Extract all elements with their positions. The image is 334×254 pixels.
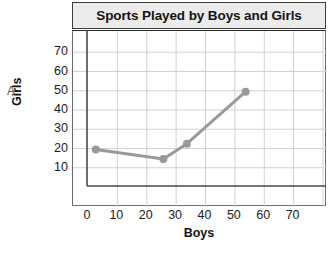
y-tick-50: 50 bbox=[46, 83, 68, 97]
x-axis-tick-labels: 010203040506070 bbox=[72, 208, 326, 226]
x-axis-title: Boys bbox=[72, 226, 326, 240]
y-tick-40: 40 bbox=[46, 102, 68, 116]
y-axis-tick-labels: 10203040506070 bbox=[42, 30, 68, 206]
chart-title: Sports Played by Boys and Girls bbox=[96, 8, 301, 23]
y-tick-60: 60 bbox=[46, 64, 68, 78]
x-tick-0: 0 bbox=[84, 208, 91, 222]
y-tick-70: 70 bbox=[46, 44, 68, 58]
x-tick-60: 60 bbox=[256, 208, 270, 222]
y-tick-10: 10 bbox=[46, 160, 68, 174]
y-tick-20: 20 bbox=[46, 141, 68, 155]
x-tick-70: 70 bbox=[286, 208, 300, 222]
x-tick-20: 20 bbox=[139, 208, 153, 222]
y-axis-title: Girls bbox=[10, 78, 24, 107]
chart-screenshot: A. Sports Played by Boys and Girls 10203… bbox=[0, 0, 334, 254]
x-tick-40: 40 bbox=[198, 208, 212, 222]
x-tick-50: 50 bbox=[227, 208, 241, 222]
x-tick-30: 30 bbox=[168, 208, 182, 222]
x-tick-10: 10 bbox=[109, 208, 123, 222]
chart-container: Sports Played by Boys and Girls 10203040… bbox=[72, 2, 328, 230]
chart-title-bar: Sports Played by Boys and Girls bbox=[72, 2, 326, 29]
y-tick-30: 30 bbox=[46, 121, 68, 135]
data-series bbox=[72, 30, 326, 206]
